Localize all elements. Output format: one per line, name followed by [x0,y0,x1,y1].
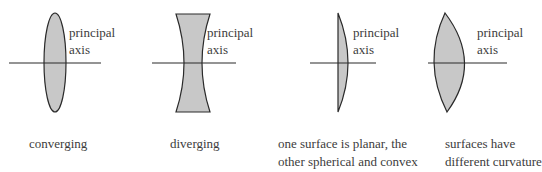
axis-label-diverging: principal axis [207,24,253,58]
caption-converging: converging [29,135,87,153]
axis-label-line1: principal [353,24,399,41]
axis-label-line2: axis [353,41,399,58]
caption-line2: other spherical and convex [278,153,418,171]
caption-diverging: diverging [170,135,220,153]
caption-line2: different curvature [445,153,542,171]
caption-plano-convex: one surface is planar, the other spheric… [278,135,418,171]
caption-line1: surfaces have [445,135,542,153]
axis-label-line1: principal [207,24,253,41]
axis-label-line2: axis [477,41,523,58]
axis-label-plano-convex: principal axis [353,24,399,58]
caption-line1: one surface is planar, the [278,135,418,153]
caption-line1: converging [29,135,87,153]
axis-label-line2: axis [207,41,253,58]
axis-label-converging: principal axis [69,24,115,58]
caption-meniscus: surfaces have different curvature [445,135,542,171]
caption-line1: diverging [170,135,220,153]
axis-label-line1: principal [477,24,523,41]
axis-label-line1: principal [69,24,115,41]
axis-label-line2: axis [69,41,115,58]
axis-label-meniscus: principal axis [477,24,523,58]
